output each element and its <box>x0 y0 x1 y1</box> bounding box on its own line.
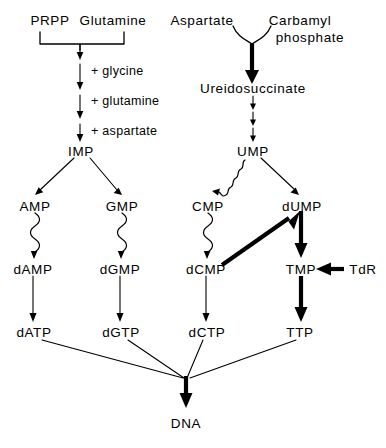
gmp-to-dgmp-head <box>118 251 125 259</box>
node-tmp: TMP <box>286 262 316 277</box>
node-ureidosuccinate: Ureidosuccinate <box>200 81 306 96</box>
dgtp-to-dna-line <box>128 340 184 378</box>
purine-step-aspartate <box>77 124 84 142</box>
damp-to-datp-head <box>30 313 37 322</box>
dcmp-to-dump-shaft <box>222 218 289 265</box>
imp-branch-arrows <box>35 158 122 195</box>
uridine-arrow2-head <box>250 120 256 127</box>
node-dump: dUMP <box>282 199 322 214</box>
node-ump: UMP <box>237 144 269 159</box>
imp-to-amp-shaft <box>40 158 74 190</box>
cofactor-glutamine: + glutamine <box>91 94 159 108</box>
node-glutamine: Glutamine <box>80 13 147 28</box>
cmp-to-dcmp-head <box>204 251 211 259</box>
cmp-to-dcmp-wavy-shaft <box>204 213 213 252</box>
ttp-to-dna-line <box>190 340 296 378</box>
carbamyl-curve <box>252 26 271 44</box>
node-amp: AMP <box>19 199 50 214</box>
aspartate-step-arrowhead <box>77 134 84 142</box>
node-dna: DNA <box>171 416 201 431</box>
glycine-arrowhead <box>77 82 84 90</box>
ump-to-dump-shaft <box>261 158 294 189</box>
ump-branch-arrows <box>212 158 299 196</box>
tdr-to-tmp-bold <box>316 263 344 276</box>
prpp-glutamine-bracket <box>40 32 124 50</box>
amp-to-damp-wavy-shaft <box>31 213 40 252</box>
tmp-to-ttp-bold <box>295 276 308 322</box>
converge-to-dna-lines <box>42 340 296 408</box>
node-dctp: dCTP <box>189 325 226 340</box>
ump-to-cmp-wavy-shaft <box>219 160 245 196</box>
pathway-svg: PRPP Glutamine Aspartate Carbamyl phosph… <box>0 0 386 448</box>
dgmp-to-dgtp-arrow <box>117 276 124 322</box>
aspartate-curve <box>233 26 252 44</box>
ump-to-cmp-head <box>212 189 220 196</box>
node-ttp: TTP <box>286 325 313 340</box>
dgmp-to-dgtp-head <box>117 313 124 322</box>
dcmp-to-dctp-head <box>203 313 210 322</box>
node-damp: dAMP <box>13 262 52 277</box>
dna-arrowhead <box>180 393 193 408</box>
node-carbamyl-line1: Carbamyl <box>269 13 332 28</box>
imp-to-gmp-head <box>114 188 122 195</box>
cofactor-glycine: + glycine <box>91 64 143 78</box>
gmp-to-dgmp-wavy-shaft <box>118 213 127 252</box>
dcmp-to-dctp-arrow <box>203 276 210 322</box>
purine-step-glutamine <box>77 95 84 119</box>
bracket-arrowhead <box>77 52 84 60</box>
cmp-to-dcmp-wavy <box>204 213 213 259</box>
tmp-to-ttp-head <box>295 307 308 322</box>
glutamine-step-arrowhead <box>77 111 84 119</box>
dctp-to-dna-line <box>187 340 203 378</box>
damp-to-datp-arrow <box>30 276 37 322</box>
imp-to-gmp-shaft <box>90 158 117 190</box>
cofactor-aspartate: + aspartate <box>91 124 157 138</box>
purine-step-glycine <box>77 64 84 90</box>
dump-to-tmp-head <box>295 243 308 258</box>
node-cmp: CMP <box>192 199 224 214</box>
amp-to-damp-wavy <box>31 213 40 259</box>
aspartate-carbamyl-junction-group <box>233 26 271 84</box>
node-prpp: PRPP <box>30 13 69 28</box>
node-gmp: GMP <box>106 199 139 214</box>
uridine-arrow3-head <box>250 136 256 143</box>
pathway-diagram: PRPP Glutamine Aspartate Carbamyl phosph… <box>0 0 386 448</box>
node-aspartate: Aspartate <box>170 13 233 28</box>
node-dcmp: dCMP <box>186 262 226 277</box>
node-carbamyl-line2: phosphate <box>276 30 344 45</box>
prpp-glutamine-bracket-group <box>40 32 124 60</box>
datp-to-dna-line <box>42 340 183 378</box>
node-imp: IMP <box>68 144 94 159</box>
amp-to-damp-head <box>31 251 38 259</box>
node-tdr: TdR <box>349 262 376 277</box>
ump-to-dump-head <box>291 187 300 195</box>
uridine-arrow1-head <box>250 104 256 111</box>
dcmp-to-dump-bold <box>222 211 300 265</box>
node-dgtp: dGTP <box>102 325 140 340</box>
gmp-to-dgmp-wavy <box>118 213 127 259</box>
node-datp: dATP <box>16 325 51 340</box>
node-dgmp: dGMP <box>100 262 141 277</box>
ureidosuccinate-to-ump-arrows <box>250 96 256 142</box>
tdr-to-tmp-head <box>316 263 331 276</box>
